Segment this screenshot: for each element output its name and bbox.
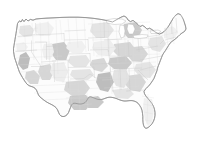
usa-map[interactable]: Grayscale choropleth map of the contiguo… [0, 0, 200, 145]
map-figure: Grayscale choropleth map of the contiguo… [0, 0, 200, 145]
